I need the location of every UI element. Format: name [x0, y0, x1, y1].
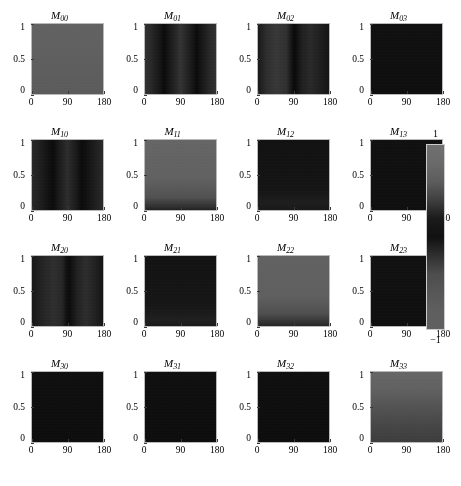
x-tick-label: 90: [289, 445, 299, 456]
y-tick-label: 0.5: [126, 287, 138, 296]
heatmap-fill: [145, 372, 216, 442]
heatmap-fill: [32, 24, 103, 94]
x-tick-mark: [181, 439, 182, 442]
y-tick-label: 0.5: [352, 171, 364, 180]
y-tick-mark: [257, 95, 260, 96]
y-tick-mark: [257, 175, 260, 176]
panel-m01: M0110.50090180: [121, 8, 224, 125]
y-tick-mark: [31, 211, 34, 212]
colorbar-gradient-fill: [427, 145, 444, 329]
y-tick-label: 0: [20, 202, 25, 211]
panel-title-m32: M32: [234, 356, 337, 370]
x-tick-label: 180: [436, 445, 450, 456]
x-tick-label: 0: [29, 445, 34, 456]
panel-title-subscript: 22: [286, 246, 294, 255]
panel-title-subscript: 02: [286, 14, 294, 23]
y-tick-label: 1: [133, 23, 138, 32]
x-axis-m21: 090180: [144, 329, 217, 341]
x-tick-label: 90: [176, 213, 186, 224]
x-tick-mark: [32, 323, 33, 326]
y-tick-mark: [257, 407, 260, 408]
y-tick-mark: [370, 24, 373, 25]
panel-title-base: M: [390, 9, 399, 21]
y-tick-label: 1: [359, 255, 364, 264]
x-tick-label: 0: [29, 329, 34, 340]
x-tick-label: 0: [255, 329, 260, 340]
panel-title-m10: M10: [8, 124, 111, 138]
y-tick-label: 0: [246, 434, 251, 443]
y-tick-mark: [144, 95, 147, 96]
y-axis-m32: 10.50: [234, 371, 254, 443]
x-axis-m31: 090180: [144, 445, 217, 457]
x-tick-mark: [104, 323, 105, 326]
y-tick-mark: [31, 443, 34, 444]
x-tick-label: 90: [63, 445, 73, 456]
panel-title-subscript: 11: [174, 130, 181, 139]
x-axis-m02: 090180: [257, 97, 330, 109]
panel-title-subscript: 13: [399, 130, 407, 139]
y-tick-mark: [31, 291, 34, 292]
x-tick-mark: [443, 439, 444, 442]
x-tick-label: 0: [368, 213, 373, 224]
x-tick-mark: [217, 323, 218, 326]
y-tick-label: 1: [359, 139, 364, 148]
y-tick-mark: [370, 95, 373, 96]
y-tick-label: 0: [246, 202, 251, 211]
y-tick-label: 0.5: [13, 287, 25, 296]
x-tick-mark: [145, 439, 146, 442]
panel-title-subscript: 31: [173, 362, 181, 371]
heatmap-m20: [31, 255, 104, 327]
y-axis-m20: 10.50: [8, 255, 28, 327]
panel-title-base: M: [277, 357, 286, 369]
heatmap-m12: [257, 139, 330, 211]
x-tick-mark: [330, 439, 331, 442]
x-tick-label: 90: [289, 329, 299, 340]
y-tick-label: 1: [20, 139, 25, 148]
x-tick-mark: [407, 439, 408, 442]
panel-m00: M0010.50090180: [8, 8, 111, 125]
x-tick-mark: [443, 91, 444, 94]
panel-title-base: M: [390, 125, 399, 137]
panel-title-base: M: [277, 9, 286, 21]
x-tick-label: 180: [210, 97, 224, 108]
panel-m31: M3110.50090180: [121, 356, 224, 473]
heatmap-m11: [144, 139, 217, 211]
x-tick-label: 180: [97, 445, 111, 456]
y-axis-m02: 10.50: [234, 23, 254, 95]
y-tick-mark: [31, 59, 34, 60]
heatmap-fill: [145, 140, 216, 210]
panel-title-m03: M03: [347, 8, 450, 22]
y-tick-label: 1: [359, 23, 364, 32]
y-axis-m30: 10.50: [8, 371, 28, 443]
x-tick-label: 0: [368, 329, 373, 340]
y-tick-label: 1: [246, 255, 251, 264]
panel-title-m30: M30: [8, 356, 111, 370]
x-tick-mark: [294, 207, 295, 210]
y-axis-m21: 10.50: [121, 255, 141, 327]
x-tick-mark: [104, 439, 105, 442]
panel-m10: M1010.50090180: [8, 124, 111, 241]
heatmap-m02: [257, 23, 330, 95]
y-tick-mark: [144, 175, 147, 176]
heatmap-fill: [371, 24, 442, 94]
y-tick-mark: [257, 443, 260, 444]
y-tick-mark: [257, 256, 260, 257]
x-tick-mark: [258, 207, 259, 210]
y-tick-mark: [257, 140, 260, 141]
panel-title-base: M: [164, 125, 173, 137]
panel-title-subscript: 30: [60, 362, 68, 371]
y-tick-label: 0.5: [239, 403, 251, 412]
x-tick-label: 90: [176, 97, 186, 108]
y-tick-mark: [144, 372, 147, 373]
y-axis-m13: 10.50: [347, 139, 367, 211]
y-tick-mark: [370, 256, 373, 257]
x-tick-label: 0: [29, 213, 34, 224]
panel-title-subscript: 21: [173, 246, 181, 255]
panel-title-m20: M20: [8, 240, 111, 254]
x-tick-label: 90: [63, 329, 73, 340]
x-tick-label: 180: [323, 329, 337, 340]
x-axis-m11: 090180: [144, 213, 217, 225]
x-axis-m10: 090180: [31, 213, 104, 225]
y-tick-label: 1: [359, 371, 364, 380]
x-tick-label: 0: [255, 445, 260, 456]
